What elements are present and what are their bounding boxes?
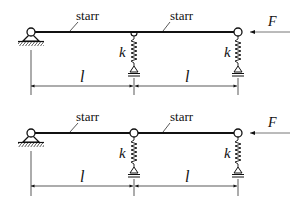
spring-right-icon bbox=[232, 36, 244, 76]
spring-label-right: k bbox=[224, 145, 231, 161]
spring-middle-icon bbox=[128, 137, 140, 177]
force-label: F bbox=[267, 115, 277, 130]
pin-left bbox=[27, 129, 35, 137]
dimension-label-right: l bbox=[185, 168, 190, 185]
pin-left bbox=[27, 28, 35, 36]
force-label: F bbox=[267, 14, 277, 29]
spring-middle-icon bbox=[128, 36, 140, 76]
mechanics-diagram: starr starr k k F l l bbox=[0, 0, 296, 212]
spring-label-right: k bbox=[224, 44, 231, 60]
node-right bbox=[234, 129, 242, 137]
bar-label-right: starr bbox=[170, 8, 194, 23]
spring-right-icon bbox=[232, 137, 244, 177]
diagram-top: starr starr k k F l l bbox=[18, 8, 290, 95]
dimension-label-left: l bbox=[80, 68, 85, 85]
hinge-middle-icon bbox=[130, 129, 138, 137]
dimension-label-left: l bbox=[80, 168, 85, 185]
dimension-label-right: l bbox=[185, 68, 190, 85]
bar-label-right: starr bbox=[170, 109, 194, 124]
spring-label-middle: k bbox=[119, 44, 126, 60]
diagram-bottom: starr starr k k F l l bbox=[18, 109, 290, 196]
node-right bbox=[234, 28, 242, 36]
spring-label-middle: k bbox=[119, 145, 126, 161]
bar-label-left: starr bbox=[76, 109, 100, 124]
bar-label-left: starr bbox=[76, 8, 100, 23]
